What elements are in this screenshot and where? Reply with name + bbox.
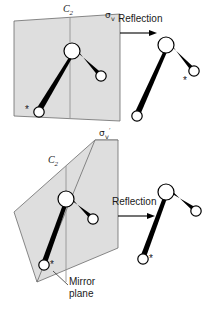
sigma-v-prime-label: σ v ′: [99, 127, 111, 141]
reflection-arrow-bottom: [118, 213, 155, 219]
atom-center-top-left: [64, 43, 80, 59]
atom-star-marker-bottom-left: *: [50, 259, 54, 270]
mirror-plane-label-line1: Mirror: [69, 276, 96, 287]
c2-axis-label-top-subscript: 2: [70, 9, 74, 17]
atom-b-bottom-left: [88, 214, 98, 224]
atom-b-top-left: [96, 71, 106, 81]
c2-axis-label-bottom: C 2: [48, 154, 59, 168]
figure-canvas: * C 2 σ v Reflection: [0, 0, 215, 310]
atom-center-top-right: [158, 37, 174, 53]
reflection-arrow-top: [120, 30, 157, 36]
panel-top: * C 2 σ v Reflection: [14, 3, 199, 121]
atom-center-bottom-left: [58, 191, 74, 207]
reflection-label-bottom: Reflection: [112, 196, 156, 207]
sigma-v-prime-label-prime: ′: [109, 127, 111, 135]
atom-a-top-right: [132, 111, 142, 121]
reflection-label-top: Reflection: [118, 13, 162, 24]
bond-center-to-atom-a-top-right: [136, 46, 170, 114]
molecule-top-right: *: [132, 37, 199, 121]
atom-a-top-left: [34, 107, 44, 117]
symmetry-figure: * C 2 σ v Reflection: [0, 0, 215, 310]
atom-star-marker-bottom-right: *: [149, 253, 153, 264]
atom-a-bottom-right: [138, 254, 148, 264]
mirror-plane-label-line2: plane: [69, 288, 94, 299]
sigma-v-label-top-subscript: v: [111, 15, 115, 23]
atom-a-bottom-left: [39, 260, 49, 270]
c2-axis-label-bottom-subscript: 2: [55, 160, 59, 168]
atom-center-bottom-right: [158, 184, 174, 200]
c2-axis-label-top: C 2: [63, 3, 74, 17]
panel-bottom: C 2 σ v ′ * Mirror plane: [14, 127, 201, 299]
atom-star-marker-top-right: *: [183, 75, 187, 86]
atom-star-marker-top-left: *: [25, 104, 29, 115]
sigma-v-plane-surface: [14, 14, 120, 121]
atom-b-bottom-right: [191, 206, 201, 216]
atom-b-top-right: [189, 66, 199, 76]
